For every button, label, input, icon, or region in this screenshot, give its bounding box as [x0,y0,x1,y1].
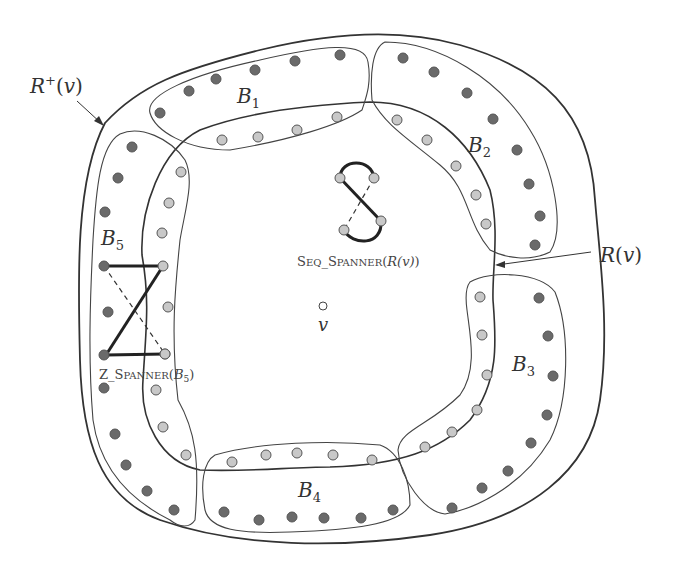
inner-region-boundary [142,102,495,470]
center-vertex [319,302,327,310]
outer-vertex-dot [548,371,558,381]
z-spanner-vertex-dot [99,350,109,360]
seq-spanner-vertex-dot [376,216,386,226]
inner-vertex-dot [481,219,491,229]
outer-vertex-dot [287,512,297,522]
outer-vertex-dot [447,503,457,513]
outer-vertex-dot [429,67,439,77]
outer-vertex-dot [142,486,152,496]
outer-vertex-dot [127,142,137,152]
outer-vertex-dot [319,513,329,523]
inner-vertex-dot [447,427,457,437]
inner-vertex-dot [328,450,338,460]
outer-vertex-dot [524,179,534,189]
outer-vertex-dot [254,515,264,525]
label-b1: B1 [236,84,260,111]
inner-vertex-dot [392,115,402,125]
outer-vertex-dot [100,207,110,217]
inner-vertex-dot [472,405,482,415]
outer-vertex-dot [535,211,545,221]
seq-spanner-vertex-dot [369,173,379,183]
seq-spanner-arc-bottom [344,221,381,241]
seq-spanner-diagonal [340,178,381,221]
label-b3: B3 [511,352,535,379]
region-diagram: R+(v) R(v) v B1 B2 B3 B4 B5 SEQ_SPANNER(… [0,0,673,569]
inner-vertex-dot [477,330,487,340]
outer-vertex-dot [211,74,221,84]
outer-vertex-dot [542,410,552,420]
outer-vertex-dot [477,483,487,493]
z-spanner-bottom [106,354,165,355]
label-r-plus: R+(v) [29,73,83,98]
inner-vertex-dot [292,448,302,458]
inner-vertex-dot [332,112,342,122]
inner-vertex-dot [420,442,430,452]
outer-vertex-dot [169,505,179,515]
outer-vertex-dot [113,173,123,183]
outer-vertex-dot [512,145,522,155]
inner-vertex-dot [158,422,168,432]
inner-vertex-dot [292,125,302,135]
outer-vertex-dot [184,86,194,96]
seq-spanner-arc-top [340,163,374,178]
z-spanner-diagonal [106,266,163,355]
outer-vertex-dot [543,331,553,341]
outer-vertex-dot [530,240,540,250]
seq-spanner-vertex-dot [339,225,349,235]
inner-vertex-dot [157,228,167,238]
outer-vertex-dot [250,65,260,75]
label-seq-spanner: SEQ_SPANNER(R(v)) [297,254,420,269]
inner-vertex-dot [451,161,461,171]
outer-vertex-dot [503,466,513,476]
outer-vertex-dot [219,507,229,517]
inner-vertex-dot [367,455,377,465]
outer-vertex-dot [99,383,109,393]
outer-vertex-dot [398,53,408,63]
cluster-b5-boundary [90,131,197,526]
outer-vertex-dot [534,293,544,303]
inner-vertex-dot [181,450,191,460]
z-spanner-vertex-dot [160,349,170,359]
inner-vertex-dot [227,457,237,467]
figure-canvas: R+(v) R(v) v B1 B2 B3 B4 B5 SEQ_SPANNER(… [0,0,673,569]
inner-vertex-dot [151,385,161,395]
outer-vertex-dot [110,429,120,439]
inner-vertex-dot [164,198,174,208]
inner-vertex-dot [471,190,481,200]
cluster-b3-boundary [398,275,566,514]
outer-vertex-dot [99,261,109,271]
inner-vertex-dot [176,167,186,177]
label-b4: B4 [297,478,321,505]
r-arrowhead [495,261,505,268]
label-v: v [318,314,328,335]
inner-vertex-dot [422,135,432,145]
outer-vertex-dot [526,438,536,448]
seq-spanner-vertex-dot [335,173,345,183]
inner-vertex-dot [482,370,492,380]
outer-vertex-dot [335,50,345,60]
inner-vertex-dot [475,292,485,302]
inner-vertex-dot [158,261,168,271]
outer-vertex-dot [155,108,165,118]
label-z-spanner: Z_SPANNER(B5) [99,367,194,384]
outer-vertex-dot [388,505,398,515]
label-r: R(v) [599,243,642,267]
label-b2: B2 [467,133,491,160]
outer-vertex-dot [103,307,113,317]
outer-vertex-dot [121,460,131,470]
outer-vertex-dot [462,88,472,98]
r-arrow [497,252,591,265]
inner-vertex-dot [253,132,263,142]
outer-vertex-dot [356,513,366,523]
label-b5: B5 [100,226,124,253]
outer-vertex-dot [290,56,300,66]
inner-vertex-dot [163,302,173,312]
inner-vertex-dot [261,450,271,460]
outer-vertex-dot [488,114,498,124]
inner-vertex-dot [217,135,227,145]
